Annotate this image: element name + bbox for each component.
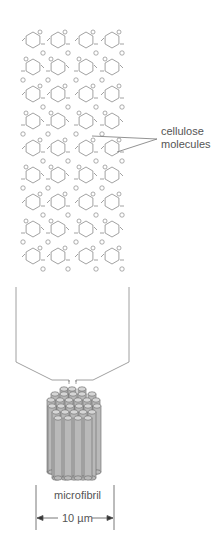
cellulose-microfibril-diagram: cellulose molecules microfibril 10 µm (0, 0, 218, 537)
microfibril-bundle-icon (47, 387, 101, 480)
cellulose-molecules-label: cellulose molecules (161, 125, 211, 151)
label-line-2: molecules (161, 138, 211, 151)
cellulose-chains (21, 30, 124, 271)
microfibril-label: microfibril (54, 489, 101, 502)
diagram-graphic (0, 0, 218, 537)
callout-lines (92, 136, 157, 152)
expansion-bracket (16, 287, 129, 384)
scale-label: 10 µm (62, 512, 93, 525)
label-line-1: cellulose (161, 125, 211, 138)
